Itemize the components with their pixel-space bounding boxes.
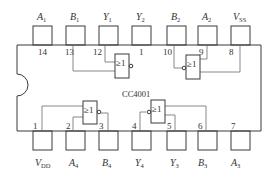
pin-box-10 xyxy=(167,26,186,45)
pin-number: 14 xyxy=(38,47,48,57)
inverter-bubble-icon xyxy=(129,64,133,68)
top-pin-numbers: 14 13 12 1 10 9 8 xyxy=(38,47,234,57)
bottom-pin-labels: VDD A4 B4 Y4 Y3 B3 A3 xyxy=(35,157,240,169)
pin-number: 8 xyxy=(229,47,234,57)
svg-text:Y1: Y1 xyxy=(103,11,112,23)
pin-box-13 xyxy=(66,26,85,45)
gate-1: ≥1 xyxy=(73,45,133,78)
pin-box-6 xyxy=(198,131,217,150)
inverter-bubble-icon xyxy=(182,66,186,70)
svg-text:A2: A2 xyxy=(201,11,211,23)
pin-box-1 xyxy=(33,131,52,150)
svg-text:B3: B3 xyxy=(198,157,207,169)
pin-box-4 xyxy=(132,131,151,150)
pin-number: 2 xyxy=(66,121,71,131)
svg-text:A4: A4 xyxy=(68,157,79,169)
pin-number: 6 xyxy=(198,121,203,131)
svg-text:A3: A3 xyxy=(230,157,240,169)
bottom-pin-numbers: 1 2 3 4 5 6 7 xyxy=(33,121,236,131)
gate-symbol: ≥1 xyxy=(116,58,125,68)
chip-name: CC4001 xyxy=(122,89,150,99)
inverter-bubble-icon xyxy=(147,110,151,114)
pin-number: 1 xyxy=(139,47,144,57)
svg-text:Y3: Y3 xyxy=(170,157,179,169)
svg-text:A1: A1 xyxy=(36,11,46,23)
pin-box-7 xyxy=(231,131,250,150)
svg-text:B2: B2 xyxy=(171,11,180,23)
chip-body xyxy=(17,45,261,131)
pin-box-1-top xyxy=(132,26,151,45)
pin-number: 7 xyxy=(231,121,236,131)
gate-4: ≥1 xyxy=(140,100,206,131)
svg-text:B4: B4 xyxy=(102,157,112,169)
pin-box-3 xyxy=(99,131,118,150)
pin-box-8 xyxy=(231,26,250,45)
pin-box-12 xyxy=(99,26,118,45)
pin-box-5 xyxy=(167,131,186,150)
pin-number: 4 xyxy=(132,121,137,131)
pin-number: 1 xyxy=(33,121,38,131)
pin-number: 12 xyxy=(93,47,102,57)
svg-text:B1: B1 xyxy=(70,11,79,23)
inverter-bubble-icon xyxy=(97,110,101,114)
svg-text:Y4: Y4 xyxy=(135,157,145,169)
svg-text:VSS: VSS xyxy=(233,11,247,23)
pin-box-2 xyxy=(66,131,85,150)
pin-number: 5 xyxy=(167,121,172,131)
svg-text:VDD: VDD xyxy=(35,157,51,169)
gate-symbol: ≥1 xyxy=(187,59,196,69)
svg-text:Y2: Y2 xyxy=(136,11,145,23)
pin-box-9 xyxy=(198,26,217,45)
cc4001-pinout-diagram: A1 B1 Y1 Y2 B2 A2 VSS 14 13 12 1 10 9 8 … xyxy=(0,0,274,174)
top-pin-labels: A1 B1 Y1 Y2 B2 A2 VSS xyxy=(36,11,247,23)
top-pin-boxes xyxy=(33,26,250,45)
gate-symbol: ≥1 xyxy=(84,105,93,115)
pin-box-14 xyxy=(33,26,52,45)
bottom-pin-boxes xyxy=(33,131,250,150)
pin-number: 10 xyxy=(163,47,173,57)
gate-symbol: ≥1 xyxy=(152,104,161,114)
pin-number: 3 xyxy=(99,121,104,131)
